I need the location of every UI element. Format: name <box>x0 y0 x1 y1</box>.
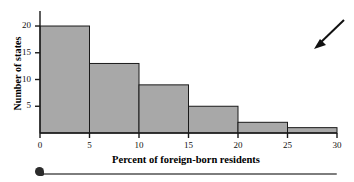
histogram-bar <box>288 128 338 133</box>
y-tick-label: 10 <box>15 74 31 84</box>
page-rule-artifact <box>37 173 337 175</box>
plot-area <box>0 0 354 182</box>
histogram-bar <box>40 26 90 133</box>
x-tick-label: 20 <box>229 140 247 150</box>
scan-blob-artifact <box>35 167 44 176</box>
x-tick-label: 25 <box>279 140 297 150</box>
histogram-bar <box>189 106 239 133</box>
histogram-bar <box>139 85 189 133</box>
x-tick-label: 0 <box>31 140 49 150</box>
histogram-figure: Number of states Percent of foreign-born… <box>0 0 354 182</box>
pointer-arrow-head <box>314 39 326 49</box>
x-tick-label: 5 <box>81 140 99 150</box>
histogram-bar <box>90 63 140 133</box>
y-tick-label: 5 <box>15 100 31 110</box>
x-tick-label: 15 <box>180 140 198 150</box>
bars-layer <box>40 26 337 133</box>
annotation-layer <box>314 20 344 49</box>
y-tick-label: 15 <box>15 47 31 57</box>
x-tick-label: 10 <box>130 140 148 150</box>
y-tick-label: 20 <box>15 20 31 30</box>
histogram-bar <box>238 122 288 133</box>
x-tick-label: 30 <box>328 140 346 150</box>
